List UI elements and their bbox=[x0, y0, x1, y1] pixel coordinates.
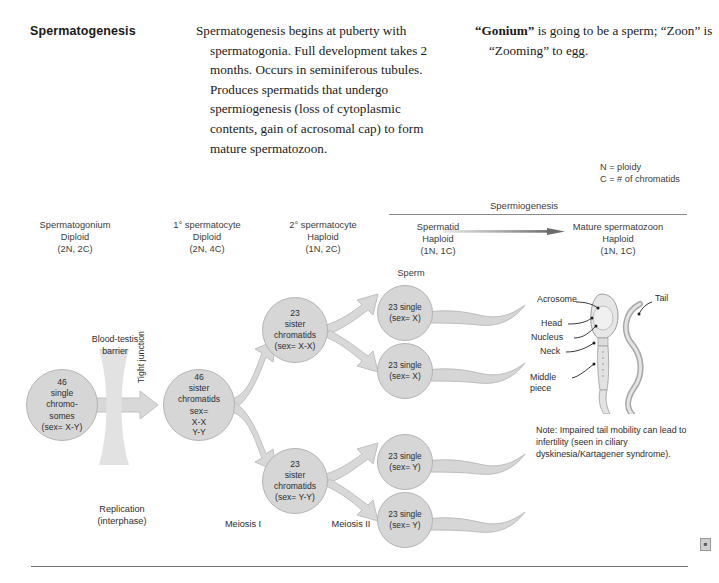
arrow-secondary-x-to-spermatid-1 bbox=[326, 294, 378, 334]
cell-secondary-x-text: 23 sister chromatids (sex= X-X) bbox=[268, 308, 322, 353]
btb-line-2: barrier bbox=[73, 346, 157, 358]
cell-primary-text: 46 sister chromatids sex= X-X Y-Y bbox=[172, 372, 226, 438]
blood-testis-barrier-label: Blood-testis barrier bbox=[73, 334, 157, 357]
page-corner-mark-icon: ■ bbox=[700, 538, 711, 551]
replication-line-2: (interphase) bbox=[74, 515, 170, 527]
spermatid-x-1: 23 single (sex= X) bbox=[377, 285, 527, 349]
cell-line-2: single bbox=[39, 388, 86, 399]
sex-pair-bottom: Y-Y bbox=[181, 427, 217, 438]
chromosome-count: 23 bbox=[271, 459, 319, 470]
cell-line-2: single bbox=[400, 451, 422, 461]
process-label-replication: Replication (interphase) bbox=[74, 503, 170, 527]
cell-line-2: sister bbox=[175, 383, 223, 394]
cell-line-3: chromatids bbox=[175, 394, 223, 405]
tight-junction-shape-icon bbox=[99, 349, 129, 465]
anatomy-sperm-side-view bbox=[591, 294, 618, 414]
chromosome-count: 23 bbox=[388, 451, 397, 461]
anatomy-tail-curve bbox=[626, 304, 641, 414]
chromosome-count: 46 bbox=[175, 372, 223, 383]
sperm-head: 23 single (sex= X) bbox=[377, 285, 433, 341]
sperm-tail-icon bbox=[417, 444, 527, 488]
sperm-head: 23 single (sex= X) bbox=[377, 343, 433, 399]
cell-line-2: sister bbox=[271, 319, 319, 330]
cell-line-3: chromo- bbox=[39, 399, 86, 410]
footer-divider bbox=[31, 566, 688, 567]
cell-line-2: single bbox=[400, 360, 422, 370]
spermatid-y-1: 23 single (sex= Y) bbox=[377, 434, 527, 498]
arrow-secondary-y-to-spermatid-4 bbox=[326, 479, 378, 521]
btb-line-1: Blood-testis bbox=[73, 334, 157, 346]
middle-piece-line-1: Middle bbox=[530, 372, 556, 383]
spermatid-text: 23 single (sex= Y) bbox=[378, 451, 432, 472]
sex-prefix: sex= bbox=[178, 406, 220, 417]
cell-line-2: single bbox=[400, 509, 422, 519]
spermatid-text: 23 single (sex= Y) bbox=[378, 509, 432, 530]
process-label-meiosis-1: Meiosis I bbox=[188, 518, 298, 530]
cell-sex: (sex= X-Y) bbox=[39, 422, 86, 433]
chromosome-count: 23 bbox=[388, 302, 397, 312]
chromosome-count: 23 bbox=[271, 308, 319, 319]
cell-sex: (sex= X) bbox=[389, 313, 420, 323]
sex-pair-group: X-X Y-Y bbox=[178, 417, 220, 438]
cell-sex: (sex= X-X) bbox=[271, 341, 319, 352]
sperm-tail-icon bbox=[417, 295, 527, 339]
cell-spermatogonium-text: 46 single chromo- somes (sex= X-Y) bbox=[36, 377, 89, 433]
chromosome-count: 23 bbox=[388, 360, 397, 370]
anatomy-label-nucleus: Nucleus bbox=[531, 332, 563, 343]
chromosome-count: 23 bbox=[388, 509, 397, 519]
cell-sex: (sex= Y) bbox=[389, 520, 420, 530]
cell-spermatogonium: 46 single chromo- somes (sex= X-Y) bbox=[26, 369, 98, 441]
sperm-tail-icon bbox=[417, 502, 527, 546]
sperm-tail-icon bbox=[417, 353, 527, 397]
tight-junction-label: Tight junction bbox=[136, 302, 146, 412]
anatomy-label-tail: Tail bbox=[655, 293, 668, 304]
anatomy-label-head: Head bbox=[541, 318, 562, 329]
sperm-head: 23 single (sex= Y) bbox=[377, 434, 433, 490]
spermatid-x-2: 23 single (sex= X) bbox=[377, 343, 527, 407]
cell-line-3: chromatids bbox=[271, 481, 319, 492]
middle-piece-line-2: piece bbox=[530, 383, 556, 394]
sex-pair-top: X-X bbox=[181, 417, 217, 428]
cell-line-4: somes bbox=[39, 411, 86, 422]
cell-line-3: chromatids bbox=[271, 330, 319, 341]
page-canvas: Spermatogenesis Spermatogenesis begins a… bbox=[0, 0, 719, 583]
cell-primary-spermatocyte: 46 sister chromatids sex= X-X Y-Y bbox=[163, 369, 235, 441]
arrow-secondary-y-to-spermatid-3 bbox=[326, 443, 378, 483]
cell-sex: (sex= Y-Y) bbox=[271, 492, 319, 503]
spermatid-text: 23 single (sex= X) bbox=[378, 360, 432, 381]
sperm-label: Sperm bbox=[381, 268, 441, 278]
chromosome-count: 46 bbox=[39, 377, 86, 388]
cell-sex-bracket: sex= X-X Y-Y bbox=[175, 406, 223, 438]
anatomy-label-middle-piece: Middle piece bbox=[530, 372, 556, 394]
cell-line-2: sister bbox=[271, 470, 319, 481]
cell-secondary-spermatocyte-x: 23 sister chromatids (sex= X-X) bbox=[262, 297, 328, 363]
sperm-head: 23 single (sex= Y) bbox=[377, 492, 433, 548]
spermatid-y-2: 23 single (sex= Y) bbox=[377, 492, 527, 556]
cell-secondary-y-text: 23 sister chromatids (sex= Y-Y) bbox=[268, 459, 322, 504]
cell-sex: (sex= X) bbox=[389, 371, 420, 381]
cell-line-2: single bbox=[400, 302, 422, 312]
clinical-note: Note: Impaired tail mobility can lead to… bbox=[536, 424, 714, 460]
cell-secondary-spermatocyte-y: 23 sister chromatids (sex= Y-Y) bbox=[262, 448, 328, 514]
anatomy-label-acrosome: Acrosome bbox=[537, 294, 577, 305]
spermatid-text: 23 single (sex= X) bbox=[378, 302, 432, 323]
anatomy-label-neck: Neck bbox=[540, 346, 560, 357]
cell-sex: (sex= Y) bbox=[389, 462, 420, 472]
replication-line-1: Replication bbox=[74, 503, 170, 515]
arrow-secondary-x-to-spermatid-2 bbox=[326, 330, 378, 372]
